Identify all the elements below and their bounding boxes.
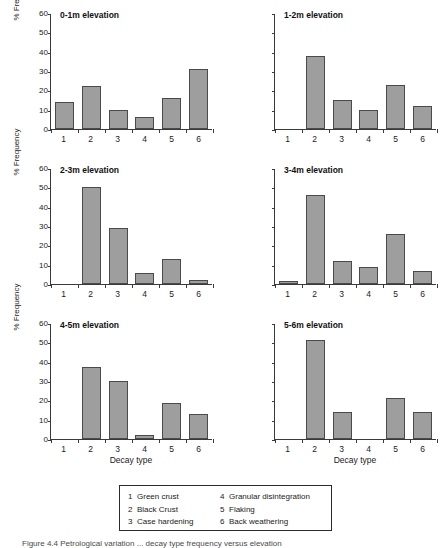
bar-slot <box>382 169 409 284</box>
x-tick-mark <box>159 284 160 288</box>
y-tick-mark <box>272 343 276 344</box>
legend-item: 3Case hardening <box>128 516 220 527</box>
x-tick-mark <box>105 439 106 443</box>
bar-slot <box>158 14 185 129</box>
y-tick-mark <box>272 227 276 228</box>
bar-slot <box>158 169 185 284</box>
x-axis-labels: 123456 <box>50 134 212 144</box>
x-tick-mark <box>275 284 276 288</box>
bar-5 <box>162 98 181 129</box>
x-tick-mark <box>213 129 214 133</box>
legend-item-number: 3 <box>128 516 137 527</box>
bar-series <box>275 324 436 439</box>
bar-slot <box>409 169 436 284</box>
legend-item-number: 4 <box>220 491 229 502</box>
x-tick-mark <box>159 129 160 133</box>
y-tick-mark <box>272 363 276 364</box>
x-tick-label: 3 <box>328 289 355 299</box>
bar-slot <box>78 324 105 439</box>
x-tick-label: 6 <box>409 134 436 144</box>
x-tick-label: 4 <box>131 134 158 144</box>
bar-slot <box>132 324 159 439</box>
bar-slot <box>132 169 159 284</box>
chart-panel-5-6m: % Frequency 0102030405060 5-6m elevation… <box>238 318 444 468</box>
legend-column-left: 1Green crust2Black Crust3Case hardening <box>128 491 220 527</box>
bar-slot <box>409 14 436 129</box>
x-tick-mark <box>105 284 106 288</box>
y-tick-mark <box>272 188 276 189</box>
bar-slot <box>409 324 436 439</box>
bar-4 <box>135 435 154 439</box>
bar-slot <box>329 14 356 129</box>
plot-area <box>50 324 212 440</box>
bar-slot <box>51 324 78 439</box>
legend-item-label: Black Crust <box>137 505 178 514</box>
bar-6 <box>189 280 208 284</box>
y-tick-mark <box>272 53 276 54</box>
figure-caption: Figure 4.4 Petrological variation ... de… <box>22 539 430 548</box>
bar-slot <box>356 324 383 439</box>
bar-2 <box>306 195 325 284</box>
x-tick-label: 2 <box>301 289 328 299</box>
legend-item-label: Green crust <box>137 492 179 501</box>
y-tick-mark <box>272 266 276 267</box>
y-tick-mark <box>48 208 52 209</box>
y-tick-mark <box>48 188 52 189</box>
x-tick-mark <box>132 439 133 443</box>
y-tick-mark <box>48 246 52 247</box>
bar-slot <box>78 14 105 129</box>
chart-panel-2-3m: % Frequency 0102030405060 2-3m elevation… <box>14 163 220 313</box>
bar-slot <box>329 324 356 439</box>
x-tick-label: 5 <box>382 134 409 144</box>
x-tick-label: 2 <box>77 134 104 144</box>
bar-6 <box>413 271 432 284</box>
x-tick-label: 1 <box>50 444 77 454</box>
x-tick-label: 2 <box>77 289 104 299</box>
chart-panel-0-1m: % Frequency 0102030405060 0-1m elevation… <box>14 8 220 158</box>
x-tick-mark <box>437 284 438 288</box>
bar-slot <box>382 14 409 129</box>
bar-slot <box>51 14 78 129</box>
chart-panel-1-2m: % Frequency 0102030405060 1-2m elevation… <box>238 8 444 158</box>
bar-6 <box>189 69 208 129</box>
x-tick-label: 3 <box>328 444 355 454</box>
x-tick-mark <box>356 439 357 443</box>
legend-item-number: 6 <box>220 516 229 527</box>
x-tick-label: 2 <box>77 444 104 454</box>
x-tick-label: 1 <box>274 289 301 299</box>
x-tick-label: 4 <box>355 134 382 144</box>
bar-4 <box>135 117 154 129</box>
x-tick-label: 6 <box>409 289 436 299</box>
x-tick-label: 5 <box>158 289 185 299</box>
y-tick-mark <box>48 227 52 228</box>
bar-slot <box>185 324 212 439</box>
y-tick-mark <box>48 382 52 383</box>
y-tick-mark <box>272 246 276 247</box>
bar-slot <box>302 324 329 439</box>
x-tick-label: 4 <box>355 444 382 454</box>
x-tick-mark <box>186 439 187 443</box>
x-tick-label: 4 <box>131 444 158 454</box>
x-tick-label: 6 <box>409 444 436 454</box>
bar-4 <box>135 273 154 284</box>
bar-slot <box>105 324 132 439</box>
plot-area <box>50 169 212 285</box>
bar-5 <box>386 85 405 129</box>
x-tick-label: 3 <box>104 444 131 454</box>
x-tick-mark <box>186 129 187 133</box>
bar-5 <box>386 234 405 284</box>
x-tick-label: 4 <box>355 289 382 299</box>
bar-slot <box>158 324 185 439</box>
y-tick-mark <box>272 421 276 422</box>
y-tick-mark <box>48 33 52 34</box>
y-tick-mark <box>272 324 276 325</box>
y-tick-mark <box>48 169 52 170</box>
bar-series <box>51 324 212 439</box>
x-tick-label: 3 <box>104 289 131 299</box>
bar-slot <box>185 14 212 129</box>
y-axis-ticks: 0102030405060 <box>248 169 272 285</box>
y-tick-mark <box>48 401 52 402</box>
bar-3 <box>333 261 352 284</box>
x-axis-labels: 123456 <box>274 289 436 299</box>
x-tick-label: 2 <box>301 444 328 454</box>
